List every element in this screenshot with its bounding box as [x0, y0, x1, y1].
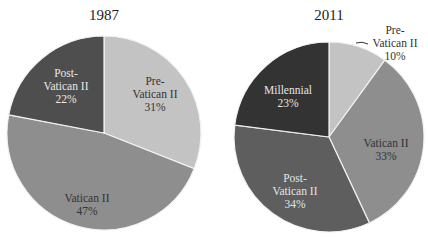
label-line: Vatican II	[265, 185, 325, 198]
label-2011-vatican: Vatican II 33%	[356, 137, 416, 163]
label-line: Vatican II	[52, 192, 122, 205]
label-line: Pre-	[367, 24, 423, 37]
label-value: 34%	[265, 198, 325, 211]
label-value: 33%	[356, 150, 416, 163]
label-line: Vatican II	[356, 137, 416, 150]
label-2011-pre-vatican: Pre- Vatican II 10%	[367, 24, 423, 63]
label-line: Pre-	[125, 75, 185, 88]
label-1987-pre-vatican: Pre- Vatican II 31%	[125, 75, 185, 114]
label-line: Post-	[36, 67, 96, 80]
label-value: 22%	[36, 93, 96, 106]
label-2011-millennial: Millennial 23%	[258, 84, 318, 110]
label-value: 10%	[367, 50, 423, 63]
label-value: 31%	[125, 101, 185, 114]
label-1987-post-vatican: Post- Vatican II 22%	[36, 67, 96, 106]
label-value: 23%	[258, 97, 318, 110]
label-line: Vatican II	[367, 37, 423, 50]
label-value: 47%	[52, 205, 122, 218]
label-line: Millennial	[258, 84, 318, 97]
label-2011-post-vatican: Post- Vatican II 34%	[265, 172, 325, 211]
label-line: Vatican II	[36, 80, 96, 93]
label-1987-vatican: Vatican II 47%	[52, 192, 122, 218]
label-line: Post-	[265, 172, 325, 185]
label-line: Vatican II	[125, 88, 185, 101]
